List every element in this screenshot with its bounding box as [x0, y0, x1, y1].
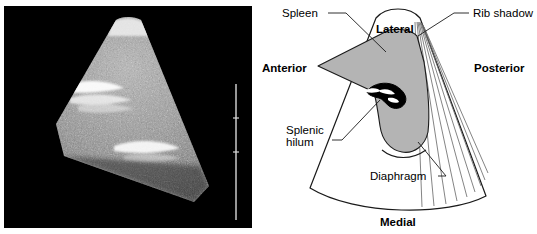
label-spleen: Spleen — [282, 7, 318, 19]
label-diaphragm: Diaphragm — [370, 170, 426, 182]
figure-container: Spleen Lateral Rib shadow Anterior Poste… — [0, 0, 537, 234]
label-splenic-hilum-line1: Splenic — [286, 124, 324, 136]
label-lateral: Lateral — [376, 23, 414, 35]
spleen-schematic: Spleen Lateral Rib shadow Anterior Poste… — [258, 0, 537, 234]
label-rib-shadow: Rib shadow — [473, 7, 534, 19]
ultrasound-image — [4, 6, 252, 228]
label-anterior: Anterior — [262, 62, 307, 74]
schematic-panel: Spleen Lateral Rib shadow Anterior Poste… — [258, 0, 537, 234]
ultrasound-panel — [4, 6, 252, 228]
label-posterior: Posterior — [474, 62, 525, 74]
label-splenic-hilum-line2: hilum — [286, 136, 313, 148]
label-medial: Medial — [380, 216, 416, 228]
